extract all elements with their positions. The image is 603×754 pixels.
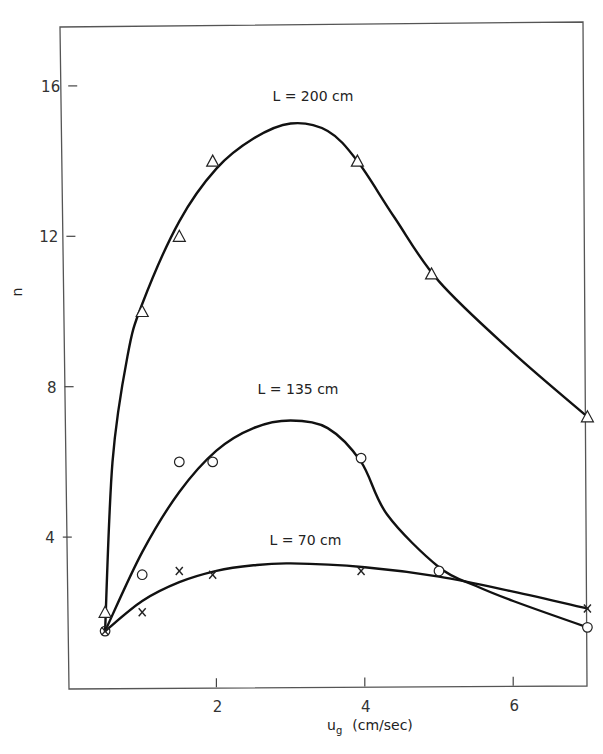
circle-marker (434, 566, 444, 576)
chart: 481216246 L = 200 cmL = 135 cmL = 70 cm … (0, 0, 603, 754)
fit-curve-L200 (105, 123, 587, 631)
curve-label: L = 200 cm (272, 88, 353, 104)
y-tick-label: 4 (45, 529, 55, 547)
y-tick-label: 8 (47, 379, 57, 397)
curve-label: L = 70 cm (269, 532, 341, 548)
x-marker (176, 567, 183, 575)
x-tick-label: 6 (509, 697, 519, 715)
triangle-marker (207, 155, 219, 166)
circle-marker (208, 457, 218, 467)
x-marker (358, 567, 365, 575)
data-markers (99, 155, 593, 636)
circle-marker (583, 623, 593, 633)
triangle-marker (99, 606, 111, 617)
circle-marker (175, 457, 185, 467)
curve-labels: L = 200 cmL = 135 cmL = 70 cm (258, 88, 354, 548)
plot-frame (60, 22, 587, 689)
x-marker (139, 608, 146, 616)
fit-curve-L135 (105, 421, 587, 632)
circle-marker (137, 570, 147, 580)
y-axis-label: n (9, 288, 25, 297)
curve-label: L = 135 cm (258, 381, 339, 397)
x-tick-label: 2 (213, 698, 223, 716)
circle-marker (356, 453, 366, 463)
triangle-marker (136, 306, 148, 317)
y-tick-label: 16 (41, 78, 60, 96)
x-axis-title: ug(cm/sec) (327, 717, 413, 736)
x-tick-label: 4 (361, 698, 371, 716)
triangle-marker (426, 268, 438, 279)
triangle-marker (173, 230, 185, 241)
y-tick-label: 12 (39, 228, 58, 246)
y-axis-title: n (9, 288, 25, 297)
x-axis-label: ug(cm/sec) (327, 717, 413, 736)
fit-curves (105, 123, 587, 631)
